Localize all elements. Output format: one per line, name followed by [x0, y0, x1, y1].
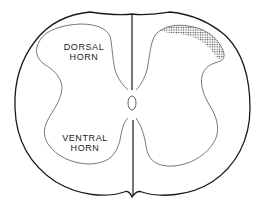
ventral-horn-label-line1: VENTRAL: [55, 133, 115, 143]
spinal-cord-diagram: [0, 0, 263, 206]
dorsal-horn-label-line1: DORSAL: [54, 42, 114, 52]
shaded-dorsal-horn-region: [160, 26, 224, 59]
ventral-horn-label: VENTRAL HORN: [55, 133, 115, 153]
central-canal: [128, 96, 136, 110]
dorsal-horn-label: DORSAL HORN: [54, 42, 114, 62]
ventral-horn-label-line2: HORN: [55, 143, 115, 153]
dorsal-horn-label-line2: HORN: [54, 52, 114, 62]
